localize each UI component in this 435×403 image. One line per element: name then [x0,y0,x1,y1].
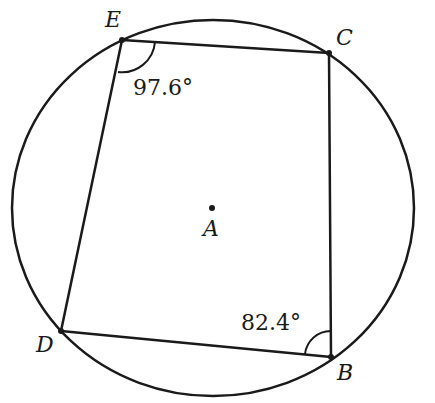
vertex-D-dot [58,328,64,334]
vertex-E-dot [119,37,125,43]
label-D: D [35,332,54,357]
label-E: E [104,7,121,32]
vertex-C-dot [326,50,332,56]
angle-arc-B [305,331,331,354]
label-B: B [336,360,353,385]
angle-arc-E [118,42,155,72]
vertex-B-dot [328,354,334,360]
center-A-dot [209,205,215,211]
angle-B-value: 82.4° [241,310,301,335]
label-A: A [201,216,219,241]
diagram-canvas: E C B D A 97.6° 82.4° [0,0,435,403]
angle-E-value: 97.6° [133,75,193,100]
label-C: C [336,25,353,50]
